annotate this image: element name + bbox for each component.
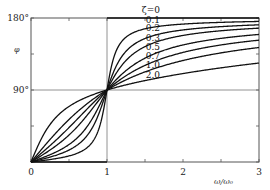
y-tick-label: 90° bbox=[13, 85, 29, 95]
series-label: 0.2 bbox=[146, 23, 160, 33]
series-label: 1.0 bbox=[146, 60, 161, 70]
x-axis-label: ω/ω₀ bbox=[214, 177, 234, 186]
y-axis-label: φ bbox=[14, 45, 20, 54]
x-tick-label: 0 bbox=[28, 167, 34, 177]
phase-response-chart: 012390°180° ζ=00.10.20.30.50.71.02.0 φ ω… bbox=[0, 0, 270, 190]
series-label: ζ=0 bbox=[142, 5, 160, 15]
series-label: 2.0 bbox=[146, 70, 161, 80]
x-tick-label: 1 bbox=[104, 167, 110, 177]
series-labels: ζ=00.10.20.30.50.71.02.0 bbox=[142, 5, 160, 80]
x-tick-label: 3 bbox=[256, 167, 262, 177]
y-tick-label: 180° bbox=[7, 13, 29, 23]
x-tick-label: 2 bbox=[180, 167, 186, 177]
